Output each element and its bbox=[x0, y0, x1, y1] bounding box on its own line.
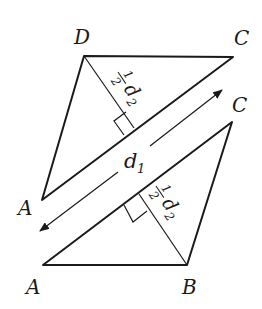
vertex-label-A-bottom: A bbox=[24, 275, 40, 299]
diagram-canvas: D C A 1 2 d 2 d 1 C A B 1 2 d 2 bbox=[0, 0, 262, 309]
top-right-angle-mark bbox=[114, 112, 126, 135]
vertex-label-C-top: C bbox=[234, 26, 249, 50]
bottom-frac-den: 2 bbox=[146, 188, 162, 203]
vertex-label-D: D bbox=[73, 25, 90, 49]
vertex-label-A-top: A bbox=[16, 196, 32, 220]
bottom-triangle-outline bbox=[43, 122, 232, 265]
vertex-label-C-bottom: C bbox=[232, 93, 247, 117]
bottom-triangle: C A B 1 2 d 2 bbox=[24, 93, 247, 299]
bottom-right-angle-mark bbox=[124, 205, 147, 222]
top-triangle-outline bbox=[42, 56, 233, 200]
bottom-height-label: 1 2 d 2 bbox=[144, 178, 188, 224]
top-triangle: D C A 1 2 d 2 bbox=[16, 25, 249, 220]
diagonal-label-var: d bbox=[124, 149, 137, 173]
arrow-segment-down bbox=[40, 172, 118, 231]
top-height-label: 1 2 d 2 bbox=[106, 64, 150, 110]
top-frac-den: 2 bbox=[108, 74, 124, 89]
vertex-label-B: B bbox=[181, 275, 197, 299]
diagonal-label-sub: 1 bbox=[137, 161, 145, 176]
